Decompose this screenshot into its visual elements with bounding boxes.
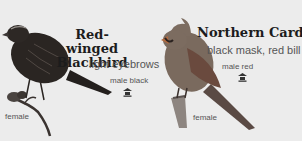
bird-name-line1: Red-winged — [56, 28, 128, 56]
red-winged-blackbird-card: Red-winged Blackbird light eyebrows male… — [0, 0, 151, 141]
male-note: male black — [110, 76, 148, 85]
northern-cardinal-card: Northern Cardinal black mask, red bill m… — [151, 0, 302, 141]
female-label: female — [193, 113, 217, 122]
bird-feeder-icon — [123, 88, 132, 97]
identifying-feature: light eyebrows — [89, 58, 159, 70]
male-note: male red — [222, 62, 253, 71]
identifying-feature: black mask, red bill — [207, 44, 301, 56]
bird-feeder-icon — [238, 73, 247, 82]
bird-name: Northern Cardinal — [197, 26, 301, 40]
female-label: female — [5, 112, 29, 121]
